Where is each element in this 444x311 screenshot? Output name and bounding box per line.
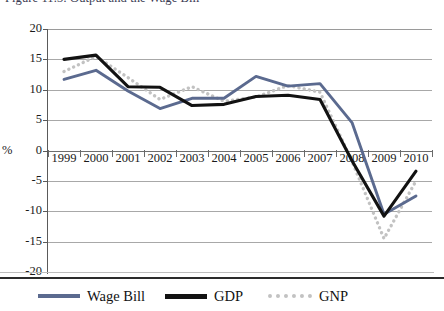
y-axis-unit-label: % (2, 143, 12, 158)
figure-container: Figure 11.3: Output and the Wage Bill 20… (0, 0, 444, 311)
series-lines (48, 29, 432, 272)
y-axis-label--5: -5 (0, 173, 42, 188)
plot-bottom-separator (0, 272, 434, 273)
series-line-gdp (64, 55, 416, 216)
y-axis-label-15: 15 (0, 51, 42, 66)
figure-bottom-rule (0, 277, 444, 279)
legend-swatch-icon (165, 294, 207, 299)
legend-label: GNP (319, 288, 348, 305)
series-line-wage-bill (64, 70, 416, 214)
y-axis-label-5: 5 (0, 112, 42, 127)
legend-label: Wage Bill (87, 288, 145, 305)
legend-item-gnp[interactable]: GNP (268, 281, 348, 311)
legend-swatch-icon (268, 294, 312, 298)
legend-swatch-icon (38, 294, 80, 298)
figure-title: Figure 11.3: Output and the Wage Bill (5, 0, 200, 6)
legend-label: GDP (214, 288, 243, 305)
x-tick-end (432, 150, 433, 157)
y-axis-label-20: 20 (0, 21, 42, 36)
chart-legend: Wage BillGDPGNP (0, 281, 444, 311)
y-axis-label--10: -10 (0, 203, 42, 218)
legend-item-gdp[interactable]: GDP (165, 281, 243, 311)
y-axis-label-10: 10 (0, 82, 42, 97)
y-axis-label--15: -15 (0, 234, 42, 249)
legend-item-wage-bill[interactable]: Wage Bill (38, 281, 145, 311)
